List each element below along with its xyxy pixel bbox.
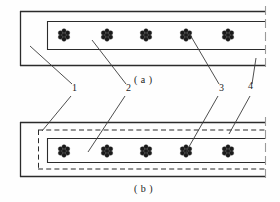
- strand-symbol: [180, 145, 191, 158]
- leader-line-4-lower: [229, 96, 250, 134]
- callout-label-1: 1: [72, 82, 77, 93]
- strand-symbol: [101, 29, 112, 42]
- leader-line-3-lower: [186, 96, 218, 152]
- figure-container: ( a ) ( b ) 1 2 3 4: [0, 0, 280, 202]
- panel-a-group: [20, 6, 266, 70]
- strand-symbol: [58, 29, 69, 42]
- leader-line-2-upper: [92, 40, 126, 84]
- strand-symbol: [222, 29, 233, 42]
- strand-symbol: [140, 145, 151, 158]
- leader-line-1-lower: [42, 96, 71, 131]
- panel-b-group: [20, 117, 266, 182]
- strand-symbol: [222, 145, 233, 158]
- panel-b-caption: ( b ): [134, 183, 153, 194]
- strand-symbol: [140, 29, 151, 42]
- panel-a-caption: ( a ): [134, 74, 153, 85]
- callout-label-3: 3: [219, 82, 224, 93]
- technical-diagram-svg: [0, 0, 280, 202]
- panel-a-strand-row: [58, 29, 233, 42]
- leader-line-2-lower: [88, 96, 125, 152]
- leader-line-3-upper: [189, 33, 219, 84]
- callout-label-4: 4: [248, 80, 253, 91]
- strand-symbol: [101, 145, 112, 158]
- strand-symbol: [58, 145, 69, 158]
- panel-b-strand-row: [58, 145, 233, 158]
- callout-label-2: 2: [126, 82, 131, 93]
